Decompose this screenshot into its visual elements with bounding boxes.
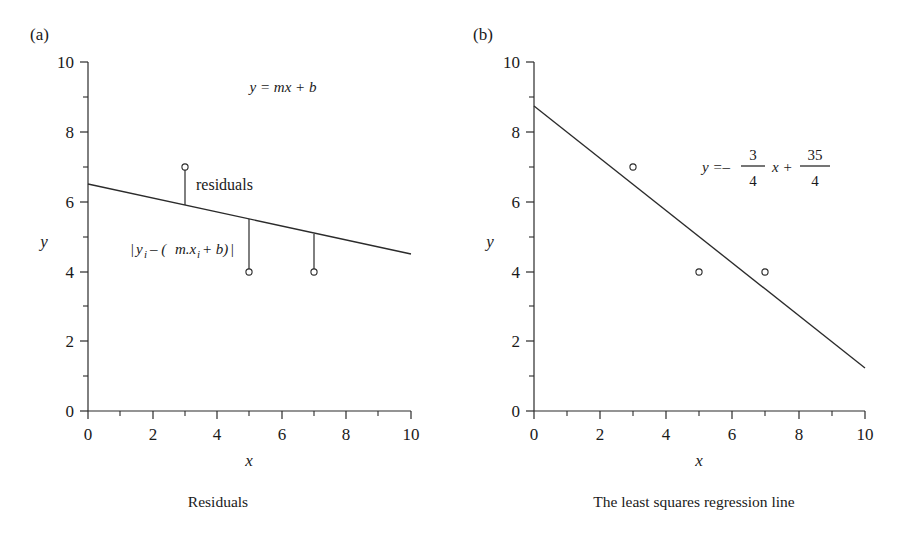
y-tick-label: 6	[66, 193, 75, 212]
x-tick-label: 4	[662, 425, 671, 444]
regression-line-b	[534, 106, 865, 368]
x-axis-label-a: x	[244, 451, 253, 470]
residual-formula-y: y	[134, 241, 143, 257]
equation-b-lhs: y =–	[700, 159, 731, 175]
chart-a-svg: (a)	[0, 0, 457, 537]
x-tick-label: 6	[278, 425, 287, 444]
residual-formula-x-sub: i	[197, 248, 200, 260]
panel-b-letter: (b)	[473, 25, 493, 44]
x-tick-label: 10	[857, 425, 874, 444]
y-axis-label-b: y	[484, 232, 494, 251]
residual-formula-tail: + b)	[202, 241, 228, 258]
data-point	[311, 269, 317, 275]
data-point	[762, 269, 768, 275]
residual-formula-m: m.x	[175, 241, 197, 257]
y-tick-labels-a: 10 8 6 4 2 0	[57, 53, 75, 421]
y-minor-ticks-a	[83, 97, 88, 376]
data-points-b	[630, 164, 768, 275]
y-tick-label: 10	[503, 53, 520, 72]
panel-a: (a)	[0, 0, 457, 537]
y-tick-label: 0	[512, 402, 521, 421]
equation-b-numerator-2: 35	[808, 147, 823, 163]
x-tick-label: 8	[342, 425, 351, 444]
x-tick-label: 0	[84, 425, 93, 444]
x-tick-label: 0	[530, 425, 539, 444]
x-tick-label: 10	[403, 425, 420, 444]
x-tick-label: 8	[795, 425, 804, 444]
y-tick-label: 2	[66, 332, 75, 351]
y-tick-label: 8	[512, 123, 521, 142]
equation-b-mid: x +	[771, 159, 793, 175]
y-axis-label-a: y	[38, 232, 48, 251]
x-tick-label: 4	[213, 425, 222, 444]
figure-root: (a)	[0, 0, 914, 537]
y-minor-ticks-b	[529, 97, 534, 376]
y-tick-label: 10	[57, 53, 74, 72]
residuals-annotation: residuals	[196, 176, 253, 193]
y-tick-label: 4	[512, 263, 521, 282]
equation-a: y = mx + b	[248, 79, 317, 95]
x-tick-labels-a: 0 2 4 6 8 10	[84, 425, 420, 444]
y-tick-label: 6	[512, 193, 521, 212]
equation-b-numerator-1: 3	[749, 147, 757, 163]
chart-b-svg: (b)	[457, 0, 914, 537]
residual-formula-minus: – (	[149, 241, 167, 258]
x-axis-label-b: x	[694, 451, 703, 470]
equation-b: y =– 3 4 x + 35 4	[700, 147, 830, 189]
y-tick-label: 4	[66, 263, 75, 282]
y-tick-label: 0	[66, 402, 75, 421]
y-tick-label: 2	[512, 332, 521, 351]
panel-b: (b)	[457, 0, 914, 537]
caption-a: Residuals	[188, 493, 248, 510]
x-tick-label: 2	[596, 425, 605, 444]
x-tick-label: 2	[149, 425, 158, 444]
caption-b: The least squares regression line	[593, 493, 795, 510]
x-minor-ticks-b	[567, 411, 832, 416]
data-point	[696, 269, 702, 275]
panel-a-letter: (a)	[30, 25, 49, 44]
residual-formula: | y i – ( m.x i + b) |	[130, 241, 234, 260]
equation-b-denominator-1: 4	[749, 173, 757, 189]
data-point	[630, 164, 636, 170]
x-tick-labels-b: 0 2 4 6 8 10	[530, 425, 874, 444]
x-tick-label: 6	[728, 425, 737, 444]
y-tick-labels-b: 10 8 6 4 2 0	[503, 53, 521, 421]
data-point	[246, 269, 252, 275]
y-tick-label: 8	[66, 123, 75, 142]
residual-formula-close: |	[230, 241, 234, 257]
data-point	[182, 164, 188, 170]
residual-formula-y-sub: i	[144, 248, 147, 260]
equation-b-denominator-2: 4	[811, 173, 819, 189]
x-minor-ticks-a	[120, 411, 378, 416]
residual-formula-open: |	[130, 241, 134, 257]
